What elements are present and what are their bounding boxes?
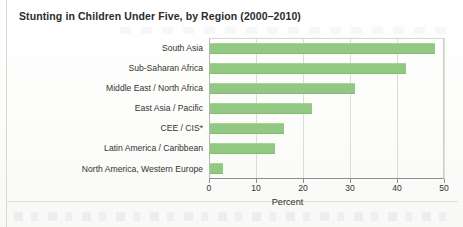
tick-label-20: 20 — [298, 183, 308, 193]
tick-label-30: 30 — [345, 183, 355, 193]
x-axis-title-text: Percent — [272, 197, 304, 207]
plot-frame — [209, 38, 444, 179]
category-label: East Asia / Pacific — [135, 104, 203, 113]
tick-label-50: 50 — [439, 183, 449, 193]
chart-title: Stunting in Children Under Five, by Regi… — [19, 10, 301, 22]
gridline-50 — [444, 38, 445, 179]
category-label: Middle East / North Africa — [106, 84, 203, 93]
category-label: South Asia — [162, 44, 203, 53]
tick-label-10: 10 — [251, 183, 261, 193]
figure-container: Stunting in Children Under Five, by Regi… — [0, 0, 463, 227]
category-label: Latin America / Caribbean — [104, 144, 203, 153]
tick-label-40: 40 — [392, 183, 402, 193]
category-label: CEE / CIS* — [160, 124, 203, 133]
page-bleed-through-top — [120, 27, 450, 34]
tick-label-0: 0 — [207, 183, 212, 193]
category-label: North America, Western Europe — [82, 165, 203, 174]
x-axis-title: Percent — [0, 197, 463, 207]
plot-area — [209, 38, 444, 179]
category-label: Sub-Saharan Africa — [128, 64, 203, 73]
page-bleed-through-bottom — [14, 212, 449, 221]
category-axis-labels: South AsiaSub-Saharan AfricaMiddle East … — [0, 38, 203, 179]
